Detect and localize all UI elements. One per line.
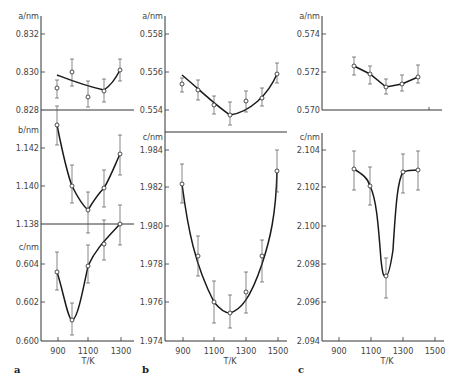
x-tick-label: 900 — [175, 346, 190, 356]
data-point — [118, 152, 122, 156]
x-tick-label: 1300 — [393, 346, 414, 356]
data-point — [244, 99, 248, 103]
c-curve — [57, 224, 120, 320]
c-curve — [182, 171, 277, 313]
a-curve — [57, 70, 120, 90]
tick-label: 1.978 — [140, 259, 163, 269]
x-tick-label: 1100 — [78, 346, 99, 356]
x-tick-label: 900 — [331, 346, 346, 356]
tick-label: 1.982 — [140, 182, 163, 192]
x-tick-label: 1300 — [236, 346, 257, 356]
data-point — [102, 89, 106, 93]
data-point — [70, 70, 74, 74]
tick-label: 1.140 — [16, 181, 39, 191]
tick-label: 0.554 — [140, 105, 163, 115]
panel-c-c-ylabel: c/nm — [300, 132, 320, 142]
tick-label: 0.604 — [16, 259, 39, 269]
panel-a-c-ylabel: c/nm — [19, 242, 39, 252]
tick-label: 2.104 — [297, 145, 320, 155]
panel-a-letter: a — [14, 364, 21, 375]
tick-label: 2.098 — [297, 259, 320, 269]
data-point — [352, 167, 356, 171]
data-point — [384, 274, 388, 278]
tick-label: 0.832 — [16, 29, 39, 39]
tick-label: 1.984 — [140, 145, 163, 155]
tick-label: 2.094 — [297, 336, 320, 346]
tick-label: 0.572 — [297, 67, 320, 77]
data-point — [196, 254, 200, 258]
tick-label: 1.142 — [16, 143, 39, 153]
panel-b-letter: b — [142, 364, 149, 375]
tick-label: 1.976 — [140, 297, 163, 307]
tick-label: 0.602 — [16, 297, 39, 307]
panel-b-c-ylabel: c/nm — [143, 132, 163, 142]
tick-label: 0.600 — [16, 336, 39, 346]
x-tick-label: 1500 — [425, 346, 446, 356]
x-tick-label: 1300 — [111, 346, 132, 356]
data-point — [86, 264, 90, 268]
data-point — [196, 88, 200, 92]
panel-a: a/nm b/nm c/nm 0.832 0.830 0.828 1.142 1… — [14, 11, 134, 375]
x-tick-label: 900 — [50, 346, 65, 356]
data-point — [118, 222, 122, 226]
panel-b-xlabel: T/K — [223, 356, 238, 366]
data-point — [384, 85, 388, 89]
panel-c: a/nm c/nm 0.574 0.572 0.570 2.104 2.102 … — [297, 11, 445, 375]
data-point — [212, 300, 216, 304]
data-point — [70, 318, 74, 322]
tick-label: 0.558 — [140, 29, 163, 39]
data-point — [212, 103, 216, 107]
data-point — [86, 208, 90, 212]
tick-label: 2.096 — [297, 297, 320, 307]
data-point — [102, 242, 106, 246]
tick-label: 0.570 — [297, 105, 320, 115]
data-point — [102, 186, 106, 190]
data-point — [368, 184, 372, 188]
tick-label: 2.102 — [297, 182, 320, 192]
panel-a-xlabel: T/K — [81, 356, 96, 366]
data-point — [228, 311, 232, 315]
data-point — [118, 68, 122, 72]
panel-b-a-ylabel: a/nm — [142, 11, 163, 21]
data-point — [275, 169, 279, 173]
data-point — [368, 72, 372, 76]
panel-b: a/nm c/nm 0.558 0.556 0.554 1.984 1.982 … — [140, 11, 288, 375]
panel-c-letter: c — [298, 364, 304, 375]
data-point — [352, 64, 356, 68]
data-point — [180, 182, 184, 186]
tick-label: 0.828 — [16, 105, 39, 115]
data-point — [55, 270, 59, 274]
x-tick-label: 1100 — [204, 346, 225, 356]
x-tick-label: 1100 — [361, 346, 382, 356]
panel-a-a-ylabel: a/nm — [18, 11, 39, 21]
data-point — [416, 168, 420, 172]
x-tick-label: 1500 — [268, 346, 289, 356]
data-point — [416, 75, 420, 79]
data-point — [260, 254, 264, 258]
data-point — [260, 96, 264, 100]
data-point — [275, 72, 279, 76]
data-point — [70, 184, 74, 188]
panel-c-a-ylabel: a/nm — [299, 11, 320, 21]
panel-a-b-ylabel: b/nm — [18, 125, 39, 135]
tick-label: 1.974 — [140, 336, 163, 346]
tick-label: 2.100 — [297, 221, 320, 231]
tick-label: 0.574 — [297, 29, 320, 39]
tick-label: 1.138 — [16, 219, 39, 229]
panel-c-xlabel: T/K — [380, 356, 395, 366]
data-point — [180, 82, 184, 86]
data-point — [244, 290, 248, 294]
tick-label: 0.556 — [140, 67, 163, 77]
b-curve — [57, 125, 120, 210]
lattice-parameter-figure: a/nm b/nm c/nm 0.832 0.830 0.828 1.142 1… — [0, 0, 456, 379]
tick-label: 1.980 — [140, 221, 163, 231]
data-point — [55, 123, 59, 127]
data-point — [86, 95, 90, 99]
tick-label: 0.830 — [16, 67, 39, 77]
data-point — [55, 86, 59, 90]
data-point — [228, 113, 232, 117]
data-point — [400, 82, 404, 86]
data-point — [401, 170, 405, 174]
